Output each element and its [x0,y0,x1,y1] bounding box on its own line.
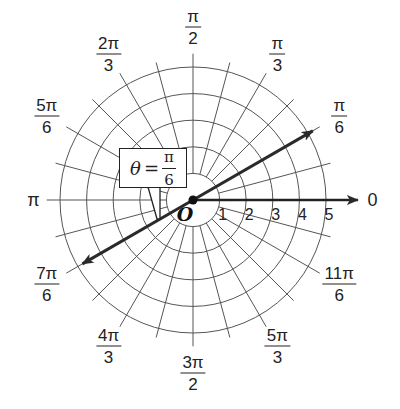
angle-numerator: π [270,34,286,54]
angle-label: π2 [185,8,201,47]
angle-label: 5π6 [34,96,59,135]
callout-denominator: 6 [164,169,174,189]
angle-denominator: 6 [42,116,51,135]
angle-denominator: 3 [104,54,113,73]
angle-denominator: 3 [104,347,113,366]
equals-sign: = [144,158,159,179]
angle-label: 5π3 [265,327,290,366]
theta-ray-forward [193,131,313,200]
radial-label: 4 [298,206,307,224]
angle-denominator: 3 [273,347,282,366]
angle-denominator: 2 [188,373,197,392]
angle-numerator: π [185,8,201,28]
angle-label: 7π6 [34,265,59,304]
angle-fraction: 5π3 [265,327,290,366]
radial-label: 3 [271,206,280,224]
callout-pointer [148,187,160,219]
theta-callout-box: θ = π 6 [119,148,187,188]
angle-denominator: 3 [273,54,282,73]
angle-fraction: 4π3 [96,327,121,366]
angle-numerator: π [331,96,347,116]
angle-denominator: 2 [188,28,197,47]
angle-denominator: 6 [335,285,344,304]
angle-label: 3π2 [180,353,205,392]
polar-grid-diagram [0,0,400,409]
radial-label: 1 [218,206,227,224]
angle-numerator: 4π [96,327,121,347]
callout-numerator: π [162,148,176,169]
angle-fraction: π2 [185,8,201,47]
angle-label: 11π6 [323,265,356,304]
angle-label: 4π3 [96,327,121,366]
angle-fraction: 7π6 [34,265,59,304]
angle-fraction: 5π6 [34,96,59,135]
angle-label: π6 [331,96,347,135]
angle-label: π [27,191,39,209]
angle-numerator: 5π [34,96,59,116]
angle-numerator: 3π [180,353,205,373]
angle-fraction: π3 [270,34,286,73]
angle-fraction: π6 [331,96,347,135]
angle-numerator: 5π [265,327,290,347]
angle-numerator: 11π [323,265,356,285]
origin-label: O [177,203,194,225]
radial-label: 2 [245,206,254,224]
grid-ray [206,223,266,327]
angle-label: 2π3 [96,34,121,73]
angle-numerator: 2π [96,34,121,54]
angle-label: 0 [368,191,378,209]
angle-numerator: 7π [34,265,59,285]
radial-label: 5 [325,206,334,224]
callout-fraction: π 6 [162,148,176,189]
angle-fraction: 3π2 [180,353,205,392]
angle-label: π3 [270,34,286,73]
angle-fraction: 2π3 [96,34,121,73]
theta-symbol: θ [130,158,141,179]
angle-fraction: 11π6 [323,265,356,304]
angle-denominator: 6 [42,285,51,304]
angle-denominator: 6 [335,116,344,135]
